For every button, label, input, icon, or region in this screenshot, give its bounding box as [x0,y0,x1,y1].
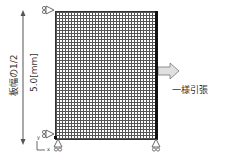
roller-support-icon [52,138,64,153]
load-label: 一様引張 [172,83,208,96]
dimension-value: 5.0[mm] [29,53,39,92]
tension-arrow-icon [158,62,180,80]
dimension-label: 板幅の1/2 [7,55,20,96]
fem-mesh [55,11,158,140]
axis-icon [34,138,48,152]
roller-support-icon [41,4,55,16]
axis-x-label: x [47,146,50,152]
axis-y-label: y [37,134,40,140]
roller-support-icon [150,138,162,153]
origin-node [54,136,57,139]
